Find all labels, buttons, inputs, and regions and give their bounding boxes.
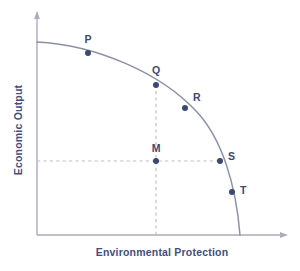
x-axis-title: Environmental Protection <box>96 246 229 258</box>
data-point-label-p: P <box>84 33 91 45</box>
data-point-label-r: R <box>193 91 201 103</box>
data-point-r <box>182 105 188 111</box>
data-point-m <box>153 158 159 164</box>
data-point-p <box>85 50 91 56</box>
data-point-t <box>229 189 235 195</box>
data-point-label-s: S <box>228 150 235 162</box>
data-point-label-t: T <box>240 184 247 196</box>
data-point-s <box>217 158 223 164</box>
ppf-chart-svg: P Q R M S T Environmental Protection Eco… <box>0 0 300 271</box>
data-point-label-q: Q <box>152 64 160 76</box>
ppf-chart: P Q R M S T Environmental Protection Eco… <box>0 0 300 271</box>
y-axis-title: Economic Output <box>12 84 24 175</box>
data-point-label-m: M <box>152 142 161 154</box>
chart-background <box>0 0 300 271</box>
data-point-q <box>153 82 159 88</box>
